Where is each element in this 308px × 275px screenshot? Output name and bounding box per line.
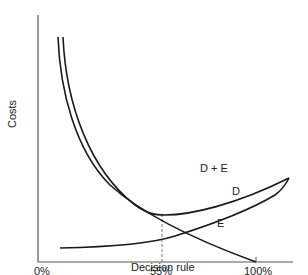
curve-d — [60, 178, 289, 248]
chart-canvas — [0, 0, 308, 275]
x-tick-label-100: 100% — [244, 265, 272, 275]
curve-label-d-plus-e: D + E — [200, 162, 228, 174]
curve-label-d: D — [232, 185, 240, 197]
curve-e — [58, 37, 256, 262]
curve-label-e: E — [217, 217, 224, 229]
curve-d-plus-e — [63, 37, 289, 215]
x-tick-label-0: 0% — [34, 265, 50, 275]
x-axis-label: Decision rule — [131, 261, 195, 273]
y-axis-label: Costs — [6, 100, 18, 128]
